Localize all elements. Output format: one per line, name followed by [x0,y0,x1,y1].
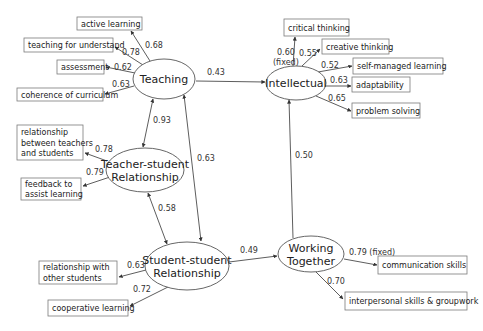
indicator-assessment: assessment [57,60,108,74]
coefficient-teaching-understand: 0.78 [122,48,140,57]
coefficient-intellectual-creative: 0.55 [299,49,317,58]
indicator-label: active learning [81,20,141,29]
latent-label: Teaching [139,73,188,86]
indicator-relationship-other-students: relationship withother students [39,261,117,284]
coefficient-working-intellectual: 0.50 [295,151,313,160]
coefficient-teacherstudent-feedback: 0.79 [86,168,104,177]
latent-label: Relationship [111,171,179,184]
indicator-feedback: feedback toassist learning [21,178,83,200]
latent-teacher-student: Teacher-studentRelationship [100,148,190,192]
indicator-creative-thinking: creative thinking [322,39,393,54]
indicator-label: teaching for understand [28,41,125,50]
indicator-label: problem solving [356,107,420,116]
coefficient-teaching-studentstudent: 0.63 [197,154,215,163]
fixed-note-intellectual: (fixed) [273,58,299,67]
latent-label: Intellectual [265,77,326,90]
indicator-label: creative thinking [326,43,393,52]
indicator-communication-skills: communication skills [378,256,467,274]
coefficient-studentstudent-cooperative: 0.72 [133,285,151,294]
latent-construct-ellipses: TeachingIntellectualTeacher-studentRelat… [100,59,344,290]
latent-intellectual: Intellectual [265,66,326,100]
indicator-label: relationship [21,128,68,137]
coefficient-intellectual-adaptability: 0.63 [330,76,348,85]
latent-working-together: WorkingTogether [278,236,344,272]
indicator-label: critical thinking [288,24,350,33]
indicator-self-managed-learning: self-managed learning [353,58,447,74]
indicator-label: assist learning [25,190,83,199]
path-teaching-intellectual [196,81,265,82]
path-teacherstudent-feedback [83,177,110,186]
structural-equation-model-diagram: active learningteaching for understandas… [0,0,483,331]
coefficient-intellectual-problem: 0.65 [328,94,346,103]
latent-label: Together [286,255,335,268]
indicator-critical-thinking: critical thinking [284,19,350,36]
coefficient-teaching-assessment: 0.62 [114,63,132,72]
indicator-interpersonal-skills: interpersonal skills & groupwork [345,292,479,310]
path-teaching-teacherstudent [143,99,153,147]
indicator-problem-solving: problem solving [352,103,420,118]
indicator-label: cooperative learning [52,304,135,313]
indicator-relationship-teachers-students: relationshipbetween teachersand students [17,125,93,160]
path-working-communication [344,259,377,265]
latent-label: Working [289,242,334,255]
indicator-label: self-managed learning [357,62,447,71]
latent-label: Student-student [142,254,232,267]
coefficient-teacherstudent-studentstudent: 0.58 [158,204,176,213]
latent-label: Relationship [153,267,221,280]
coefficient-working-communication: 0.79 (fixed) [349,248,395,257]
latent-student-student: Student-studentRelationship [142,242,232,290]
indicator-label: relationship with [43,263,110,272]
coefficient-intellectual-selfmanaged: 0.52 [321,61,339,70]
indicator-label: between teachers [21,139,93,148]
indicator-active-learning: active learning [77,17,142,30]
coefficient-studentstudent-other: 0.63 [127,261,145,270]
coefficient-teaching-intellectual: 0.43 [207,68,225,77]
indicator-label: and students [21,149,73,158]
indicator-label: other students [43,274,102,283]
indicator-label: adaptability [356,81,404,90]
coefficient-studentstudent-working: 0.49 [240,246,258,255]
path-studentstudent-other [119,270,146,277]
coefficient-teaching-teacherstudent: 0.93 [153,116,171,125]
latent-teaching: Teaching [133,59,195,99]
indicator-label: interpersonal skills & groupwork [349,297,479,306]
path-teacherstudent-studentstudent [148,193,167,244]
indicator-label: communication skills [382,261,466,270]
coefficient-teacherstudent-relationship: 0.78 [95,145,113,154]
coefficient-intellectual-critical: 0.60 [277,48,295,57]
indicator-label: coherence of curriculum [21,91,118,100]
coefficient-working-interpersonal: 0.70 [327,277,345,286]
coefficient-teaching-active: 0.68 [145,41,163,50]
latent-label: Teacher-student [100,158,190,171]
path-working-intellectual [289,100,293,238]
indicator-coherence-of-curriculum: coherence of curriculum [17,88,118,101]
indicator-teaching-for-understand: teaching for understand [24,38,125,52]
indicator-boxes: active learningteaching for understandas… [17,17,479,316]
coefficient-teaching-coherence: 0.63 [112,80,130,89]
indicator-adaptability: adaptability [352,77,410,92]
path-studentstudent-working [229,256,277,262]
indicator-cooperative-learning: cooperative learning [48,300,135,316]
indicator-label: assessment [61,63,108,72]
indicator-label: feedback to [25,180,72,189]
